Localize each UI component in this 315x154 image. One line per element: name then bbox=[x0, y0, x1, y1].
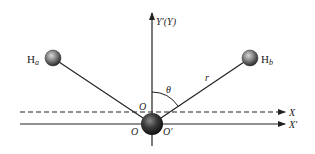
bond-a bbox=[53, 58, 152, 124]
label-origin-o-prime: O′ bbox=[163, 126, 173, 137]
label-theta: θ bbox=[166, 84, 171, 95]
theta-arc bbox=[152, 92, 178, 106]
label-x-prime-axis: X′ bbox=[288, 119, 298, 130]
label-origin-o-lower: O bbox=[131, 126, 138, 137]
atom-hb bbox=[242, 50, 258, 66]
label-origin-o-upper: O bbox=[139, 101, 146, 112]
atom-ha bbox=[45, 50, 61, 66]
label-ha: Ha bbox=[27, 53, 39, 67]
label-r: r bbox=[205, 72, 209, 83]
label-hb: Hb bbox=[261, 53, 273, 67]
atom-center bbox=[141, 113, 163, 135]
label-y-axis: Y′(Y) bbox=[156, 16, 177, 28]
label-x-axis: X bbox=[288, 107, 296, 118]
diagram-canvas: Ha Hb Y′(Y) X X′ O O O′ θ r bbox=[0, 0, 315, 154]
